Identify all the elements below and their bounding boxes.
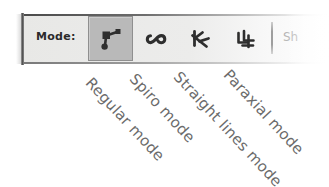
bezier-node-icon (96, 24, 126, 54)
paraxial-right-angle-icon (231, 24, 261, 54)
callout-straight-lines-mode: Straight lines mode (170, 68, 286, 187)
mode-label: Mode: (36, 30, 76, 43)
callout-paraxial-mode: Paraxial mode (220, 66, 308, 158)
zigzag-lines-icon (186, 24, 216, 54)
screenshot-root: Mode: (0, 0, 329, 187)
shape-label-truncated: Sh (283, 30, 298, 44)
callout-regular-mode: Regular mode (82, 74, 168, 165)
mode-button-regular[interactable] (88, 16, 133, 61)
callout-spiro-mode: Spiro mode (126, 70, 199, 146)
toolbar-bottom-border (21, 62, 329, 64)
spiro-curve-icon (141, 24, 171, 54)
toolbar-separator (271, 22, 273, 54)
mode-button-spiro[interactable] (133, 16, 178, 61)
mode-button-straight-lines[interactable] (178, 16, 223, 61)
mode-button-group (88, 16, 268, 61)
mode-button-paraxial[interactable] (223, 16, 268, 61)
toolbar-drag-handle[interactable] (21, 13, 24, 65)
